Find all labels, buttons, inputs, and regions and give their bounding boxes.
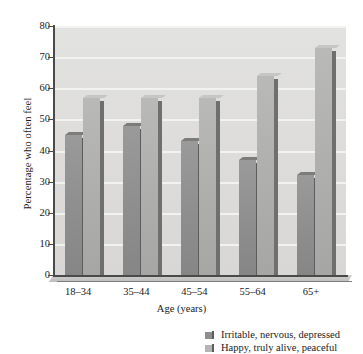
y-axis-tick-labels: 01020304050607080 (26, 18, 50, 284)
bar-irritable (181, 141, 198, 275)
y-tick-label: 20 (26, 208, 50, 218)
legend-swatch-icon-light (205, 344, 214, 352)
y-tick-mark (48, 26, 54, 27)
gridline (55, 26, 346, 28)
y-tick-label: 10 (26, 239, 50, 249)
y-tick-mark (48, 151, 54, 152)
legend-item-irritable: Irritable, nervous, depressed (205, 329, 363, 341)
x-tick-label: 45–54 (165, 286, 223, 297)
plot-area (55, 26, 346, 275)
y-tick-label: 30 (26, 177, 50, 187)
bar-irritable (297, 175, 314, 275)
y-tick-mark (48, 119, 54, 120)
bar-happy (199, 98, 216, 275)
y-tick-mark (48, 57, 54, 58)
x-tick-label: 65+ (282, 286, 340, 297)
x-tick-label: 35–44 (107, 286, 165, 297)
y-tick-mark (48, 213, 54, 214)
legend-item-happy: Happy, truly alive, peaceful (205, 342, 363, 354)
x-axis-tick-labels: 18–3435–4445–5455–6465+ (55, 286, 346, 300)
bar-irritable (65, 135, 82, 275)
y-tick-label: 40 (26, 146, 50, 156)
y-tick-label: 60 (26, 83, 50, 93)
x-axis-back-edge (57, 281, 352, 282)
x-tick-label: 55–64 (224, 286, 282, 297)
bar-chart: Percentage who often feel 01020304050607… (0, 0, 363, 354)
bar-happy (141, 98, 158, 275)
bar-happy (83, 98, 100, 275)
legend-label-happy: Happy, truly alive, peaceful (221, 342, 337, 354)
bar-irritable (239, 160, 256, 275)
x-axis-title: Age (years) (0, 303, 363, 314)
legend-swatch-icon-dark (205, 331, 214, 339)
y-tick-mark (48, 88, 54, 89)
bar-happy (257, 76, 274, 275)
gridline (55, 57, 346, 59)
y-tick-label: 0 (26, 270, 50, 280)
legend-label-irritable: Irritable, nervous, depressed (221, 329, 340, 341)
chart-legend: Irritable, nervous, depressed Happy, tru… (205, 329, 363, 354)
y-tick-label: 50 (26, 114, 50, 124)
y-tick-label: 80 (26, 21, 50, 31)
y-tick-mark (48, 244, 54, 245)
y-tick-mark (48, 182, 54, 183)
y-tick-label: 70 (26, 52, 50, 62)
bar-irritable (123, 126, 140, 275)
bar-happy (315, 48, 332, 275)
y-tick-mark (48, 275, 54, 276)
gridline (55, 88, 346, 90)
x-axis-line (53, 275, 348, 277)
x-tick-label: 18–34 (49, 286, 107, 297)
